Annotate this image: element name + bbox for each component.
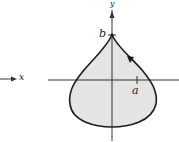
y-axis-arrow-icon: [110, 11, 115, 18]
y-axis-label: y: [110, 0, 115, 8]
b-label: b: [99, 28, 106, 39]
teardrop-region: [70, 35, 157, 127]
x-label-fragment: x: [19, 73, 24, 82]
a-label: a: [132, 85, 139, 96]
x-axis-fragment: [0, 77, 17, 82]
diagram-canvas: [0, 0, 179, 142]
arrow-right-icon: [11, 77, 17, 82]
